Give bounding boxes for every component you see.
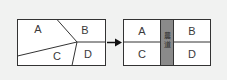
parcel-label-d: D — [84, 48, 92, 60]
farm-road-label-1: 農 — [164, 31, 171, 40]
land-consolidation-diagram: A B C D 農 道 A B C D — [0, 0, 227, 80]
farm-road-label-2: 道 — [164, 40, 171, 49]
parcel-label-b: B — [188, 25, 195, 37]
before-layout: A B C D — [18, 20, 106, 66]
transform-arrow-icon — [107, 39, 122, 47]
parcel-label-c: C — [53, 50, 61, 62]
parcel-label-a: A — [34, 23, 42, 35]
parcel-label-a: A — [138, 25, 146, 37]
after-layout: 農 道 A B C D — [124, 20, 211, 66]
parcel-label-b: B — [81, 24, 88, 36]
parcel-label-d: D — [188, 48, 196, 60]
parcel-label-c: C — [138, 48, 146, 60]
